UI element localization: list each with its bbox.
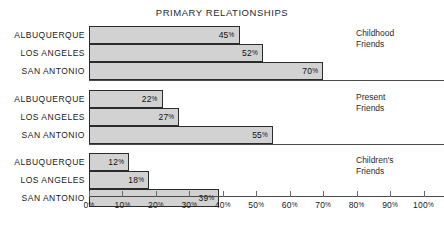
bar-value-label: 52% <box>242 48 258 58</box>
category-label: LOS ANGELES <box>20 112 85 122</box>
x-tick-label: 50% <box>248 200 264 210</box>
category-label: SAN ANTONIO <box>22 66 85 76</box>
legend-entry: ChildhoodFriends <box>356 28 394 50</box>
x-tick-label: 0% <box>84 200 95 210</box>
bar-value-label: 55% <box>252 130 268 140</box>
x-tick-label: 20% <box>148 200 164 210</box>
legend-line-1: Present <box>356 92 385 103</box>
bar[interactable]: 27% <box>89 108 179 126</box>
x-tick-mark <box>424 191 425 197</box>
bar-value-label: 27% <box>158 112 174 122</box>
x-tick-mark <box>122 191 123 197</box>
bar[interactable]: 52% <box>89 44 263 62</box>
x-tick-mark <box>89 191 90 197</box>
x-tick-mark <box>256 191 257 197</box>
legend-line-2: Friends <box>356 103 385 114</box>
x-tick-mark <box>390 191 391 197</box>
category-label: SAN ANTONIO <box>22 130 85 140</box>
x-tick-mark <box>323 191 324 197</box>
x-tick-label: 10% <box>115 200 131 210</box>
group-baseline <box>89 80 444 81</box>
group-baseline <box>89 144 444 145</box>
legend-entry: Children'sFriends <box>356 155 394 177</box>
x-tick-label: 40% <box>215 200 231 210</box>
bar[interactable]: 18% <box>89 171 149 189</box>
bar-value-label: 45% <box>219 30 235 40</box>
bar[interactable]: 45% <box>89 26 240 44</box>
category-label: LOS ANGELES <box>20 175 85 185</box>
bar[interactable]: 70% <box>89 62 323 80</box>
bar-row: SAN ANTONIO70% <box>0 62 444 80</box>
x-tick-mark <box>189 191 190 197</box>
x-tick-label: 30% <box>181 200 197 210</box>
x-tick-label: 90% <box>382 200 398 210</box>
bar-value-label: 70% <box>302 66 318 76</box>
category-label: ALBUQUERQUE <box>14 94 85 104</box>
chart-root: PRIMARY RELATIONSHIPS ALBUQUERQUE45%LOS … <box>0 0 444 229</box>
bar[interactable]: 22% <box>89 90 163 108</box>
legend-line-2: Friends <box>356 166 394 177</box>
legend-line-1: Children's <box>356 155 394 166</box>
bar-row: SAN ANTONIO55% <box>0 126 444 144</box>
legend-entry: PresentFriends <box>356 92 385 114</box>
x-tick-mark <box>223 191 224 197</box>
legend-line-2: Friends <box>356 39 394 50</box>
category-label: ALBUQUERQUE <box>14 157 85 167</box>
x-tick-mark <box>290 191 291 197</box>
x-tick-label: 70% <box>315 200 331 210</box>
bar[interactable]: 12% <box>89 153 129 171</box>
x-tick-label: 100% <box>413 200 434 210</box>
bar-value-label: 12% <box>108 157 124 167</box>
x-tick-mark <box>357 191 358 197</box>
bar[interactable]: 55% <box>89 126 273 144</box>
x-tick-mark <box>156 191 157 197</box>
category-label: ALBUQUERQUE <box>14 30 85 40</box>
x-tick-label: 60% <box>282 200 298 210</box>
category-label: LOS ANGELES <box>20 48 85 58</box>
legend-line-1: Childhood <box>356 28 394 39</box>
bar-value-label: 18% <box>128 175 144 185</box>
x-tick-label: 80% <box>349 200 365 210</box>
bar-value-label: 22% <box>142 94 158 104</box>
x-axis: 0%10%20%30%40%50%60%70%80%90%100% <box>0 196 444 229</box>
